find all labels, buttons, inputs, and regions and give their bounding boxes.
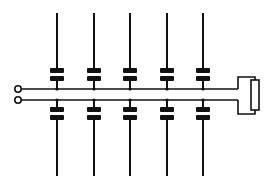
schematic-diagram: [0, 0, 272, 189]
capacitor-plate: [160, 115, 174, 120]
resistor-icon: [251, 80, 259, 110]
capacitor-plate: [50, 107, 64, 112]
capacitor-plate: [123, 107, 137, 112]
conductor-4: [160, 13, 174, 176]
input-terminals: [15, 86, 21, 103]
capacitor-plate: [50, 68, 64, 73]
conductor-1: [50, 13, 64, 176]
resistor-load: [238, 77, 259, 114]
terminal-2: [15, 97, 21, 103]
capacitor-plate: [123, 68, 137, 73]
two-wire-bus: [22, 89, 238, 100]
capacitor-plate: [196, 107, 210, 112]
capacitor-plate: [196, 68, 210, 73]
capacitor-plate: [87, 115, 101, 120]
capacitor-plate: [196, 76, 210, 81]
conductor-3: [123, 13, 137, 176]
capacitor-plate: [196, 115, 210, 120]
capacitor-plate: [50, 76, 64, 81]
capacitor-plate: [160, 107, 174, 112]
terminal-1: [15, 86, 21, 92]
capacitor-plate: [123, 115, 137, 120]
capacitor-plate: [160, 76, 174, 81]
capacitor-plate: [123, 76, 137, 81]
capacitor-plate: [87, 107, 101, 112]
capacitor-plate: [87, 76, 101, 81]
conductor-2: [87, 13, 101, 176]
capacitor-plate: [87, 68, 101, 73]
conductor-5: [196, 13, 210, 176]
vertical-conductors: [50, 13, 210, 176]
capacitor-plate: [160, 68, 174, 73]
capacitor-plate: [50, 115, 64, 120]
